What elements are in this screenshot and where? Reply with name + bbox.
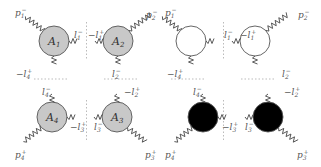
loop-momentum-label: −l1+ [88,28,104,41]
loop-momentum-label: −l2+ [124,85,140,98]
external-momentum-label: p2− [146,8,158,21]
gluon-l3 [94,115,102,120]
loop-momentum-label: l2− [112,67,121,80]
loop-momentum-label: −l1+ [240,28,256,41]
gluon-p4 [174,126,192,143]
loop-momentum-label: −l3+ [70,120,86,133]
loop-momentum-label: l3− [94,120,103,133]
gluon-l4-bar [189,56,194,64]
loop-momentum-label: l2− [282,67,291,80]
gluon-l1-bar [232,39,240,44]
external-momentum-label: p4+ [165,148,177,161]
external-momentum-label: p1− [165,6,177,19]
loop-momentum-label: l3− [245,120,254,133]
loop-momentum-label: −l2+ [284,85,300,98]
amplitude-blob-b3 [253,102,283,132]
loop-momentum-label: −l4+ [16,67,32,80]
gluon-p3 [279,128,299,143]
external-momentum-label: p4+ [15,148,27,161]
gluon-l2 [253,56,258,64]
gluon-l3-bar [218,115,226,120]
gluon-l4 [201,94,206,102]
loop-momentum-label: −l3+ [222,120,238,133]
external-momentum-label: p3+ [145,148,157,161]
gluon-l2-bar [115,94,120,102]
gluon-p3 [128,128,148,143]
gluon-p4 [23,126,41,143]
gluon-l2 [116,56,121,64]
loop-momentum-label: l1− [74,28,83,41]
gluon-l1 [206,39,214,44]
gluon-l3 [245,115,253,120]
gluon-p1 [25,16,45,31]
quadruple-cut-diagrams: A1A2A4A3p1−p2−p4+p3+l1−−l1+−l4+l2−l4−−l2… [0,0,321,167]
amplitude-blob-w1 [176,26,206,56]
external-momentum-label: p2− [298,8,310,21]
external-momentum-label: p1− [15,6,27,19]
gluon-l3-bar [67,115,75,120]
amplitude-blob-b4 [188,102,218,132]
gluon-p2 [266,12,288,31]
external-momentum-label: p3+ [297,148,309,161]
gluon-l4-bar [52,56,57,64]
loop-momentum-label: −l4+ [167,67,183,80]
loop-momentum-label: l1− [224,28,233,41]
gluon-l4 [50,94,55,102]
gluon-l2-bar [266,94,271,102]
